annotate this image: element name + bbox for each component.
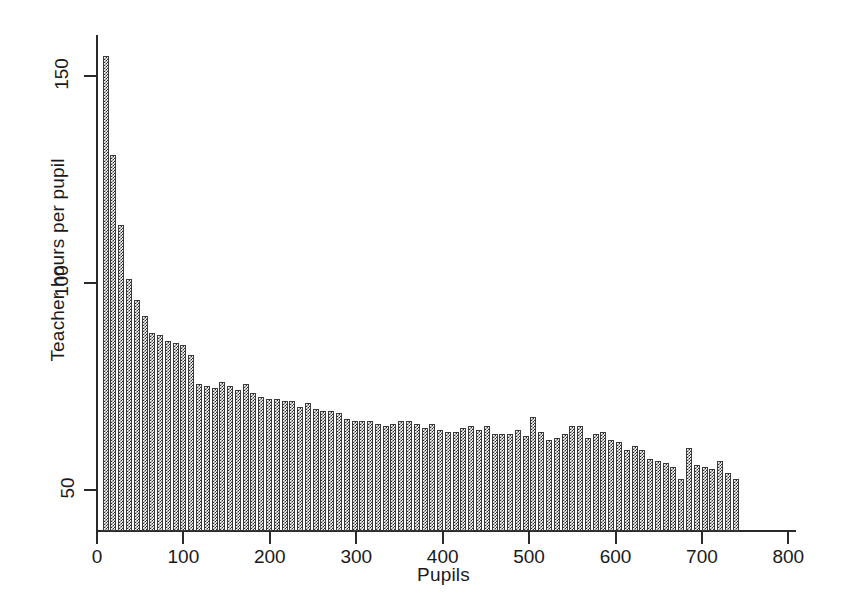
bar [398, 421, 404, 531]
x-tick-mark [701, 531, 703, 544]
bar [523, 436, 529, 531]
bar [344, 419, 350, 531]
bar [196, 384, 202, 531]
bar [320, 411, 326, 531]
bar [639, 450, 645, 531]
bar [297, 407, 303, 531]
bar [445, 432, 451, 531]
bar [383, 426, 389, 531]
bar [305, 403, 311, 531]
bar [476, 430, 482, 531]
bar [313, 409, 319, 531]
bar [157, 335, 163, 531]
bar [258, 397, 264, 531]
bar [663, 463, 669, 531]
bar [678, 479, 684, 531]
bar [352, 421, 358, 531]
x-tick-label: 200 [235, 546, 305, 568]
bar [173, 343, 179, 531]
bar [289, 401, 295, 531]
bar [406, 421, 412, 531]
bar [694, 465, 700, 531]
bar [468, 426, 474, 531]
bar [429, 424, 435, 531]
bar [585, 438, 591, 531]
x-tick-label: 400 [408, 546, 478, 568]
x-tick-label: 0 [62, 546, 132, 568]
bar [616, 442, 622, 531]
bar [608, 440, 614, 531]
bar [562, 434, 568, 531]
bar [437, 430, 443, 531]
bar [499, 434, 505, 531]
bar [180, 345, 186, 531]
bar [554, 438, 560, 531]
bar [507, 434, 513, 531]
bar [126, 279, 132, 531]
y-tick-mark [84, 489, 97, 491]
x-tick-label: 500 [494, 546, 564, 568]
x-tick-label: 600 [581, 546, 651, 568]
bar [569, 426, 575, 531]
x-tick-mark [787, 531, 789, 544]
bar [328, 411, 334, 531]
bar [282, 401, 288, 531]
bar [600, 432, 606, 531]
bar [367, 421, 373, 531]
bar [110, 155, 116, 531]
bar [212, 388, 218, 531]
bar [624, 450, 630, 531]
bar [460, 428, 466, 531]
x-tick-label: 100 [148, 546, 218, 568]
y-tick-label: 150 [0, 63, 78, 85]
bar [647, 459, 653, 531]
bar [515, 430, 521, 531]
bar [702, 467, 708, 531]
bar [453, 432, 459, 531]
bar [422, 428, 428, 531]
x-tick-mark [355, 531, 357, 544]
bar [670, 467, 676, 531]
bar [530, 417, 536, 531]
bar [655, 461, 661, 531]
y-tick-mark [84, 282, 97, 284]
bar [134, 300, 140, 531]
bar [204, 386, 210, 531]
bar [593, 434, 599, 531]
bar [632, 446, 638, 531]
bar [359, 421, 365, 531]
bar [375, 424, 381, 531]
bar [709, 469, 715, 531]
bar [219, 382, 225, 531]
x-tick-mark [269, 531, 271, 544]
bar [274, 399, 280, 531]
bar [390, 424, 396, 531]
bar [165, 341, 171, 531]
bar [118, 225, 124, 531]
x-tick-mark [96, 531, 98, 544]
x-tick-label: 300 [321, 546, 391, 568]
y-tick-label: 100 [0, 270, 78, 292]
bar [243, 384, 249, 531]
x-tick-mark [182, 531, 184, 544]
bar [227, 386, 233, 531]
chart-figure: Teacher hours per pupil Pupils 50100150 … [0, 0, 851, 611]
bar [546, 440, 552, 531]
bar [266, 399, 272, 531]
x-tick-mark [528, 531, 530, 544]
x-tick-mark [615, 531, 617, 544]
bar [733, 479, 739, 531]
bar [235, 390, 241, 531]
bar [686, 448, 692, 531]
bar [103, 56, 109, 531]
bar [250, 393, 256, 531]
bar [142, 316, 148, 531]
bar [188, 355, 194, 531]
y-tick-mark [84, 75, 97, 77]
y-tick-label: 50 [0, 477, 78, 499]
x-tick-label: 700 [667, 546, 737, 568]
bar [149, 333, 155, 531]
bar [336, 413, 342, 531]
bar [577, 426, 583, 531]
bar [725, 473, 731, 531]
